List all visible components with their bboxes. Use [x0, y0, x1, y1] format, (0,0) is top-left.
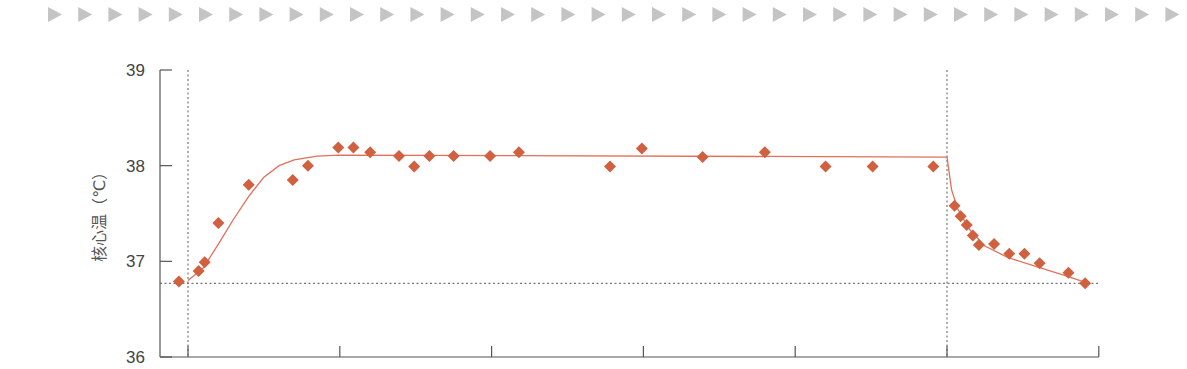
- y-axis-label: 核心温（℃）: [90, 164, 109, 262]
- diamond-marker: [448, 150, 460, 162]
- diamond-marker: [1079, 277, 1091, 289]
- diamond-marker: [484, 150, 496, 162]
- diamond-marker: [697, 151, 709, 163]
- diamond-marker: [973, 239, 985, 251]
- diamond-marker: [408, 161, 420, 173]
- diamond-marker: [212, 217, 224, 229]
- y-tick-label: 39: [126, 61, 145, 80]
- diamond-marker: [173, 275, 185, 287]
- diamond-marker: [302, 160, 314, 172]
- data-markers: [173, 141, 1091, 289]
- diamond-marker: [347, 141, 359, 153]
- diamond-marker: [1003, 248, 1015, 260]
- fit-curve: [188, 155, 1085, 282]
- diamond-marker: [513, 146, 525, 158]
- diamond-marker: [332, 141, 344, 153]
- diamond-marker: [243, 179, 255, 191]
- diamond-marker: [636, 142, 648, 154]
- diamond-marker: [393, 150, 405, 162]
- diamond-marker: [604, 161, 616, 173]
- diamond-marker: [967, 230, 979, 242]
- diamond-marker: [820, 161, 832, 173]
- diamond-marker: [1018, 248, 1030, 260]
- y-tick-label: 38: [126, 157, 145, 176]
- diamond-marker: [423, 150, 435, 162]
- y-tick-label: 37: [126, 252, 145, 271]
- y-axis-ticks: 36373839: [126, 61, 172, 367]
- diamond-marker: [867, 161, 879, 173]
- diamond-marker: [287, 174, 299, 186]
- y-tick-label: 36: [126, 348, 145, 367]
- diamond-marker: [961, 219, 973, 231]
- diamond-marker: [364, 146, 376, 158]
- core-temperature-chart: 36373839 核心温（℃）: [0, 0, 1187, 369]
- diamond-marker: [927, 161, 939, 173]
- diamond-marker: [1034, 257, 1046, 269]
- diamond-marker: [1062, 267, 1074, 279]
